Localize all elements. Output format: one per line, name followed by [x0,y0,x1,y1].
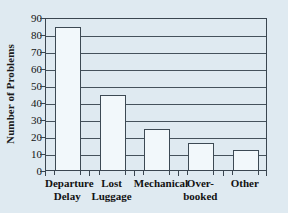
bar [55,27,81,170]
y-tick-label: 60 [18,64,42,75]
y-tick-label: 50 [18,81,42,92]
y-tick-mark [40,120,45,121]
bar [144,129,170,170]
y-tick-mark [40,103,45,104]
x-tick-label: Other [223,177,267,190]
x-tick-label-line: Lost [101,177,122,189]
y-axis-title: Number of Problems [2,18,18,170]
x-tick-mark [232,171,233,175]
y-tick-mark [40,18,45,19]
x-tick-mark [258,171,259,175]
bar [100,95,126,170]
y-tick-mark [40,137,45,138]
x-tick-mark [80,171,81,175]
x-tick-mark [45,171,46,176]
x-tick-label-line: Delay [45,190,89,203]
y-tick-mark [40,86,45,87]
x-tick-mark [89,171,90,176]
y-tick-mark [40,69,45,70]
y-tick-label: 10 [18,149,42,160]
x-tick-label-line: booked [178,190,222,203]
y-tick-mark [40,52,45,53]
bars [46,19,266,170]
bar [188,143,214,170]
x-tick-mark [178,171,179,176]
bar [233,150,259,170]
x-tick-mark [125,171,126,175]
y-axis-tick-labels: 0102030405060708090 [18,12,43,176]
y-tick-mark [40,35,45,36]
x-tick-label: DepartureDelay [45,177,89,202]
x-tick-mark [213,171,214,175]
y-tick-label: 20 [18,132,42,143]
y-tick-label: 80 [18,30,42,41]
x-tick-label-line: Departure [45,177,94,189]
x-tick-mark [143,171,144,175]
x-axis-tick-labels: DepartureDelayLostLuggageMechanicalOver-… [45,177,267,211]
y-tick-label: 70 [18,47,42,58]
x-tick-mark [266,171,267,176]
y-tick-label: 40 [18,98,42,109]
x-tick-label-line: Over- [187,177,214,189]
y-tick-label: 0 [18,166,42,177]
y-tick-label: 90 [18,13,42,24]
x-tick-label: LostLuggage [89,177,133,202]
x-tick-mark [54,171,55,175]
y-tick-label: 30 [18,115,42,126]
y-axis-title-text: Number of Problems [4,44,16,144]
plot-area [45,18,267,171]
x-tick-mark [223,171,224,176]
x-tick-mark [187,171,188,175]
x-tick-label-line: Other [231,177,259,189]
bar-chart: Number of Problems 0102030405060708090 D… [0,0,288,213]
x-tick-label: Over-booked [178,177,222,202]
x-tick-label-line: Luggage [89,190,133,203]
y-tick-mark [40,154,45,155]
x-tick-mark [134,171,135,176]
x-tick-mark [169,171,170,175]
x-tick-label: Mechanical [134,177,178,190]
x-tick-mark [99,171,100,175]
